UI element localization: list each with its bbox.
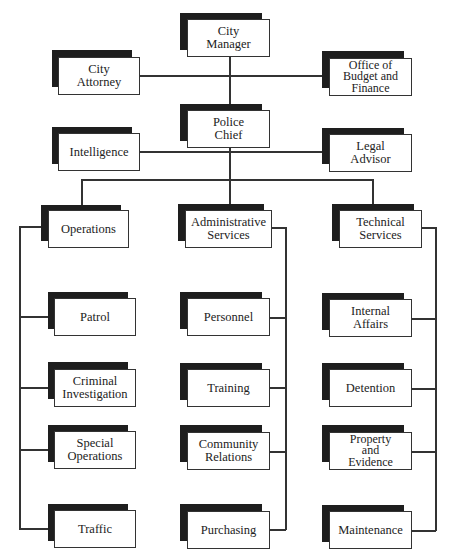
node-internal-affairs: Internal Affairs (329, 299, 412, 337)
connector-to-administrative (229, 179, 231, 204)
node-criminal-investigation: Criminal Investigation (54, 369, 136, 407)
node-police-chief: Police Chief (187, 110, 270, 148)
node-intelligence: Intelligence (58, 133, 140, 171)
connector-traffic (19, 528, 49, 530)
node-property-evidence: Property and Evidence (329, 432, 412, 470)
node-budget-finance: Office of Budget and Finance (329, 58, 412, 96)
connector-to-technical (372, 179, 374, 205)
node-administrative-services: Administrative Services (185, 210, 272, 248)
node-purchasing: Purchasing (187, 511, 270, 549)
node-patrol: Patrol (54, 298, 136, 336)
connector-training (270, 387, 286, 389)
node-operations: Operations (48, 210, 129, 248)
connector-special-operations (19, 449, 49, 451)
connector-purchasing (270, 529, 286, 531)
connector-operations-spine (19, 226, 21, 529)
node-traffic: Traffic (54, 510, 136, 548)
node-detention: Detention (329, 369, 412, 407)
node-special-operations: Special Operations (54, 431, 136, 469)
connector-to-operations (81, 179, 83, 205)
node-city-attorney: City Attorney (58, 57, 140, 95)
connector-maintenance (412, 530, 436, 532)
connector-administrative-spine (285, 227, 287, 530)
node-city-manager: City Manager (187, 19, 270, 57)
connector-division-bar (81, 179, 373, 181)
connector-manager-staff (140, 75, 329, 77)
connector-criminal-investigation (19, 387, 49, 389)
connector-personnel (270, 317, 286, 319)
node-personnel: Personnel (187, 298, 270, 336)
connector-chief-staff (140, 151, 329, 153)
connector-property-evidence (412, 451, 436, 453)
node-training: Training (187, 369, 270, 407)
node-maintenance: Maintenance (329, 511, 412, 549)
connector-technical-out (421, 227, 436, 229)
node-legal-advisor: Legal Advisor (329, 134, 412, 172)
connector-administrative-out (271, 227, 286, 229)
connector-patrol (19, 316, 49, 318)
connector-internal-affairs (412, 318, 436, 320)
connector-technical-spine (435, 227, 437, 531)
node-community-relations: Community Relations (187, 432, 270, 470)
connector-manager-to-chief (229, 57, 231, 111)
connector-community-relations (270, 451, 286, 453)
node-technical-services: Technical Services (339, 210, 422, 248)
connector-detention (412, 388, 436, 390)
